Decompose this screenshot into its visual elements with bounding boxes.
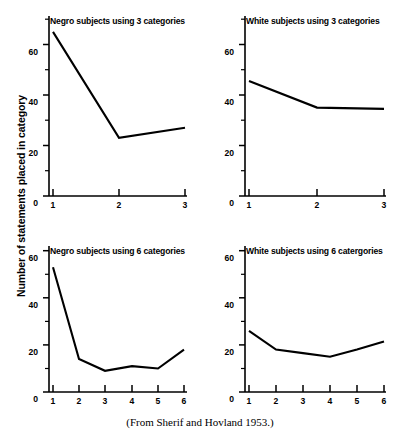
ytick-label: 0: [10, 394, 38, 404]
ytick-label: 40: [206, 97, 234, 107]
xtick-label: 2: [69, 396, 89, 406]
xtick-label: 1: [43, 200, 63, 210]
ytick-label: 20: [206, 347, 234, 357]
xtick-label: 3: [175, 200, 195, 210]
chart-panel-negro-3: Negro subjects using 3 categories 0 20 4: [22, 8, 190, 213]
xtick-label: 1: [239, 396, 259, 406]
panel-plot-area: [22, 8, 190, 213]
ytick-label: 0: [10, 198, 38, 208]
xtick-label: 5: [148, 396, 168, 406]
ytick-label: 20: [10, 148, 38, 158]
axes: [43, 16, 187, 196]
panel-title: White subjects using 6 catergories: [246, 246, 383, 256]
ytick-label: 20: [206, 148, 234, 158]
xtick-label: 4: [122, 396, 142, 406]
chart-panel-white-3: White subjects using 3 categories 0 20 4: [218, 8, 390, 213]
figure-caption: (From Sherif and Hovland 1953.): [0, 416, 400, 428]
xtick-label: 3: [293, 396, 313, 406]
figure-chart-grid: Number of statements placed in category …: [0, 0, 400, 436]
ytick-label: 20: [10, 347, 38, 357]
panel-plot-area: [218, 240, 390, 415]
xtick-label: 2: [266, 396, 286, 406]
xtick-label: 2: [109, 200, 129, 210]
ytick-label: 40: [206, 300, 234, 310]
data-series-line: [249, 81, 384, 109]
chart-panel-negro-6: Negro subjects using 6 categories: [22, 240, 190, 415]
xtick-label: 6: [174, 396, 194, 406]
ytick-label: 40: [10, 300, 38, 310]
xtick-label: 3: [374, 200, 394, 210]
xtick-label: 6: [374, 396, 394, 406]
panel-title: Negro subjects using 3 categories: [50, 16, 185, 26]
xtick-label: 3: [95, 396, 115, 406]
panel-plot-area: [218, 8, 390, 213]
xtick-label: 1: [239, 200, 259, 210]
ytick-label: 60: [206, 253, 234, 263]
ytick-label: 0: [206, 198, 234, 208]
panel-plot-area: [22, 240, 190, 415]
data-series-line: [249, 331, 384, 357]
data-series-line: [53, 32, 185, 138]
ytick-label: 40: [10, 97, 38, 107]
axes: [239, 246, 386, 392]
ytick-label: 60: [10, 253, 38, 263]
ytick-label: 0: [206, 394, 234, 404]
data-series-line: [53, 267, 184, 371]
panel-title: Negro subjects using 6 categories: [50, 246, 185, 256]
xtick-label: 1: [43, 396, 63, 406]
xtick-label: 5: [347, 396, 367, 406]
chart-panel-white-6: White subjects using 6 catergories: [218, 240, 390, 415]
xtick-label: 4: [320, 396, 340, 406]
ytick-label: 60: [10, 47, 38, 57]
xtick-label: 2: [307, 200, 327, 210]
ytick-label: 60: [206, 47, 234, 57]
panel-title: White subjects using 3 categories: [246, 16, 380, 26]
